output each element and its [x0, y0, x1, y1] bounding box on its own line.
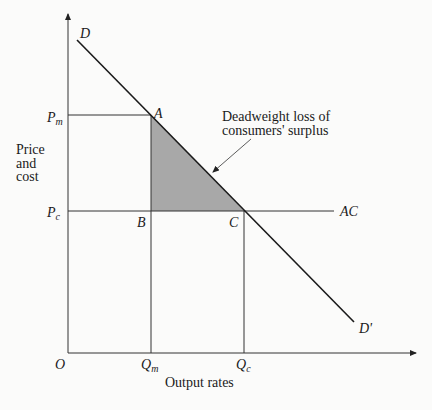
- annotation-line-2: consumers' surplus: [222, 123, 328, 138]
- demand-end-label: D': [358, 321, 373, 336]
- y-axis-label-3: cost: [16, 169, 39, 184]
- x-axis-label: Output rates: [165, 375, 234, 390]
- qc-label: Qc: [236, 357, 251, 374]
- point-a-label: A: [153, 106, 163, 121]
- demand-start-label: D: [79, 26, 90, 41]
- ac-label: AC: [339, 204, 359, 219]
- pc-label: Pc: [46, 205, 61, 222]
- origin-label: O: [55, 357, 65, 372]
- annotation-pointer: [213, 139, 251, 172]
- point-c-label: C: [229, 215, 239, 230]
- demand-curve: [77, 40, 354, 322]
- pm-label: Pm: [46, 110, 63, 127]
- point-b-label: B: [137, 215, 146, 230]
- annotation-line-1: Deadweight loss of: [222, 109, 330, 124]
- deadweight-loss-diagram: D D' AC A B C Pm Pc O Qm Qc Price and co…: [0, 0, 432, 410]
- diagram-canvas: D D' AC A B C Pm Pc O Qm Qc Price and co…: [0, 0, 432, 410]
- y-axis-label-1: Price: [16, 142, 45, 157]
- qm-label: Qm: [141, 357, 158, 374]
